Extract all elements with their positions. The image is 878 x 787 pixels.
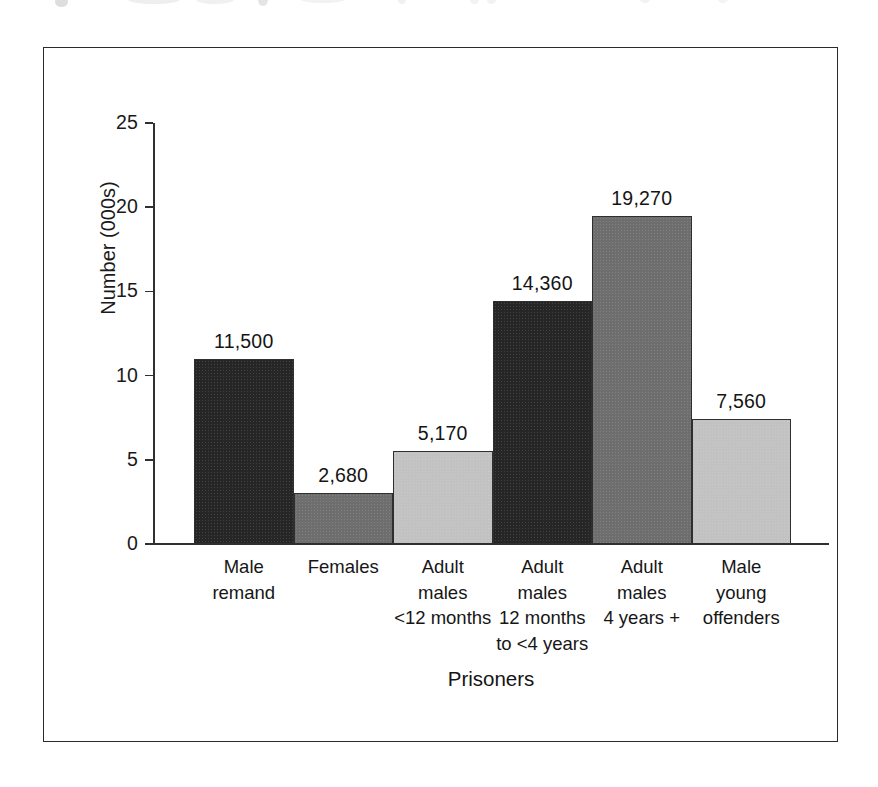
bar-1 bbox=[194, 359, 294, 544]
bar-5 bbox=[592, 216, 692, 544]
bar-6 bbox=[692, 419, 792, 544]
bar-value-label-4: 14,360 bbox=[481, 274, 605, 294]
y-axis-tick-label: 0 bbox=[42, 534, 138, 554]
y-axis-tick-20 bbox=[145, 206, 153, 208]
y-axis-tick-label-wrap: 25 bbox=[44, 113, 138, 133]
y-axis-line bbox=[153, 123, 155, 544]
x-axis-category-label-6: Maleyoungoffenders bbox=[678, 554, 806, 631]
bar-value-label-3: 5,170 bbox=[381, 424, 505, 444]
y-axis-tick-25 bbox=[145, 122, 153, 124]
y-axis-tick-label: 15 bbox=[42, 281, 138, 301]
bar-fill-texture bbox=[195, 360, 293, 543]
y-axis-tick-label-wrap: 20 bbox=[44, 197, 138, 217]
bar-fill-texture bbox=[593, 217, 691, 543]
y-axis-tick-label-wrap: 0 bbox=[44, 534, 138, 554]
x-axis-title: Prisoners bbox=[153, 668, 829, 690]
y-axis-tick-label-wrap: 5 bbox=[44, 450, 138, 470]
bar-fill-texture bbox=[494, 302, 592, 543]
plot-area: 0510152025 Number (000s) 11,5002,6805,17… bbox=[44, 48, 837, 741]
x-axis-label-line: remand bbox=[180, 580, 308, 606]
bar-value-label-1: 11,500 bbox=[182, 332, 306, 352]
y-axis-title: Number (000s) bbox=[98, 128, 118, 368]
y-axis-tick-label-wrap: 10 bbox=[44, 366, 138, 386]
bar-fill-texture bbox=[693, 420, 791, 543]
bar-3 bbox=[393, 451, 493, 544]
y-axis-tick-label: 5 bbox=[42, 450, 138, 470]
scan-artifact-strip bbox=[0, 0, 878, 14]
bar-4 bbox=[493, 301, 593, 544]
y-axis-tick-5 bbox=[145, 459, 153, 461]
bar-fill-texture bbox=[394, 452, 492, 543]
x-axis-label-line: Male bbox=[678, 554, 806, 580]
y-axis-tick-label-wrap: 15 bbox=[44, 281, 138, 301]
figure-frame: 0510152025 Number (000s) 11,5002,6805,17… bbox=[43, 47, 838, 742]
x-axis-label-line: young bbox=[678, 580, 806, 606]
bar-value-label-5: 19,270 bbox=[580, 189, 704, 209]
x-axis-label-line: offenders bbox=[678, 605, 806, 631]
bar-value-label-2: 2,680 bbox=[282, 466, 406, 486]
x-axis-label-line: to <4 years bbox=[479, 631, 607, 657]
y-axis-tick-label: 25 bbox=[42, 113, 138, 133]
y-axis-tick-10 bbox=[145, 375, 153, 377]
y-axis-tick-label: 20 bbox=[42, 197, 138, 217]
y-axis-tick-0 bbox=[145, 543, 153, 545]
y-axis-tick-15 bbox=[145, 291, 153, 293]
bar-2 bbox=[294, 493, 394, 544]
y-axis-tick-label: 10 bbox=[42, 366, 138, 386]
bar-fill-texture bbox=[295, 494, 393, 543]
bar-value-label-6: 7,560 bbox=[680, 392, 804, 412]
